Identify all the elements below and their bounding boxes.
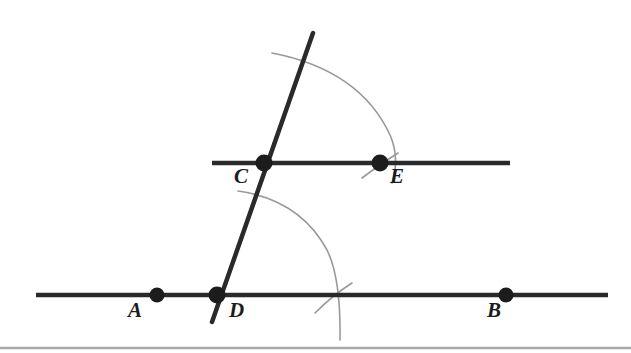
point-label-C: C: [234, 166, 248, 187]
point-C: [256, 155, 273, 172]
point-label-E: E: [390, 166, 404, 187]
point-A: [150, 288, 165, 303]
geometry-figure: A D B C E: [0, 0, 631, 353]
lower-compass-arc: [238, 191, 340, 340]
figure-canvas: [0, 0, 631, 353]
point-label-A: A: [128, 300, 142, 321]
line-group: [36, 33, 608, 322]
point-label-B: B: [487, 300, 501, 321]
tick-mark-at-lower-intersection-icon: [315, 283, 352, 313]
point-group: [150, 155, 514, 304]
point-E: [372, 155, 389, 172]
point-label-D: D: [229, 300, 244, 321]
point-D: [209, 287, 226, 304]
transversal-line: [212, 33, 313, 322]
